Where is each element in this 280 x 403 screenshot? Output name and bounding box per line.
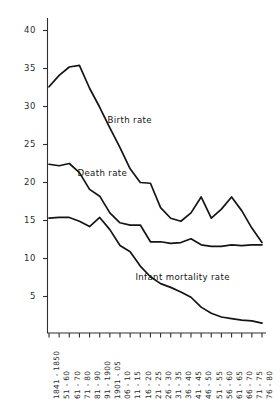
x-tick-label: 31 - 35 [174, 371, 183, 399]
y-tick-label: 40 [10, 25, 36, 35]
x-axis-ticks [49, 333, 262, 338]
series-label: Death rate [78, 168, 128, 178]
x-tick-label: 66 - 70 [245, 371, 254, 399]
series-label: Infant mortality rate [135, 272, 229, 282]
x-tick-label: 26 - 30 [164, 371, 173, 399]
x-tick-label: 56 - 60 [225, 371, 234, 399]
x-tick-label: 16 - 20 [144, 371, 153, 399]
y-tick-label: 10 [10, 253, 36, 263]
x-tick-label: 21 - 25 [154, 371, 163, 399]
x-tick-label: 61 - 65 [235, 371, 244, 399]
y-tick-label: 5 [10, 291, 36, 301]
x-tick-label: 46 - 50 [204, 371, 213, 399]
series-label: Birth rate [108, 115, 152, 125]
series-line-2 [49, 217, 262, 323]
x-tick-label: 51 - 60 [62, 371, 71, 399]
series-line-0 [49, 65, 262, 242]
y-tick-label: 20 [10, 177, 36, 187]
x-tick-label: 71 - 75 [255, 371, 264, 399]
x-tick-label: 61 - 70 [73, 371, 82, 399]
y-tick-label: 25 [10, 139, 36, 149]
x-tick-label: 11 - 15 [133, 371, 142, 399]
y-tick-label: 35 [10, 63, 36, 73]
x-tick-label: 36 - 40 [184, 371, 193, 399]
chart-container: 510152025303540 1841 - 185051 - 6061 - 7… [0, 0, 280, 403]
y-tick-label: 15 [10, 215, 36, 225]
x-tick-label: 76 - 80 [265, 371, 274, 399]
x-tick-label: 71 - 80 [83, 371, 92, 399]
x-tick-label: 41 - 45 [194, 371, 203, 399]
x-tick-label: 91 - 1900 [103, 361, 112, 399]
data-series-lines [49, 65, 262, 323]
x-tick-label: 06 - 10 [123, 371, 132, 399]
y-axis-ticks [43, 31, 48, 297]
x-tick-label: 51 - 55 [215, 371, 224, 399]
x-tick-label: 1841 - 1850 [52, 351, 61, 399]
line-chart-plot [0, 0, 280, 403]
y-tick-label: 30 [10, 101, 36, 111]
x-tick-label: 1901 - 05 [113, 361, 122, 399]
x-tick-label: 81 - 90 [93, 371, 102, 399]
